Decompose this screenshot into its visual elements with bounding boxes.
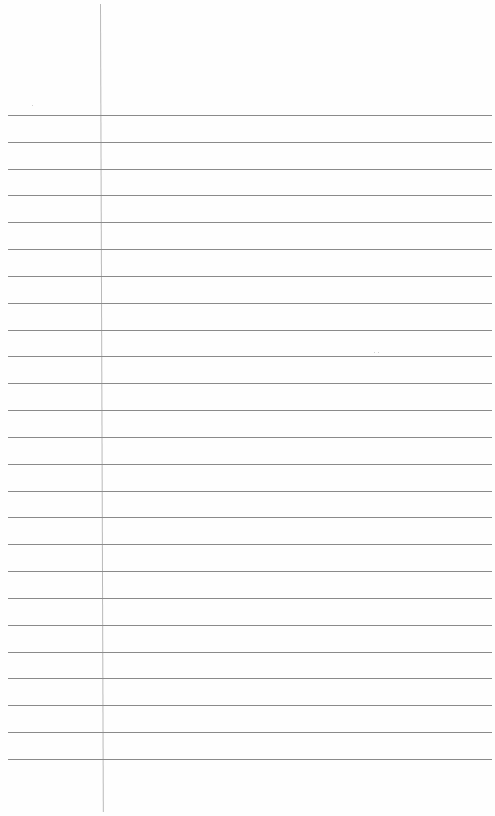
ruled-line — [8, 571, 492, 572]
ruled-line — [8, 410, 492, 411]
ruled-line — [8, 330, 492, 331]
ruled-line — [8, 356, 492, 357]
paper-speck — [32, 105, 33, 106]
ruled-line — [8, 464, 492, 465]
ruled-line — [8, 652, 492, 653]
ruled-line — [8, 115, 492, 116]
ruled-line — [8, 303, 492, 304]
ruled-line — [8, 598, 492, 599]
ruled-line — [8, 142, 492, 143]
ruled-line — [8, 383, 492, 384]
ruled-line — [8, 759, 492, 760]
ruled-line — [8, 276, 492, 277]
ruled-line — [8, 517, 492, 518]
lined-paper-sheet — [0, 0, 495, 816]
ruled-line — [8, 195, 492, 196]
ruled-line — [8, 491, 492, 492]
ruled-line — [8, 678, 492, 679]
paper-speck — [378, 352, 379, 353]
ruled-line — [8, 625, 492, 626]
ruled-line — [8, 732, 492, 733]
ruled-line — [8, 249, 492, 250]
ruled-line — [8, 437, 492, 438]
ruled-line — [8, 169, 492, 170]
ruled-line — [8, 544, 492, 545]
ruled-line — [8, 222, 492, 223]
margin-line — [100, 4, 104, 812]
paper-speck — [374, 352, 375, 353]
ruled-line — [8, 705, 492, 706]
